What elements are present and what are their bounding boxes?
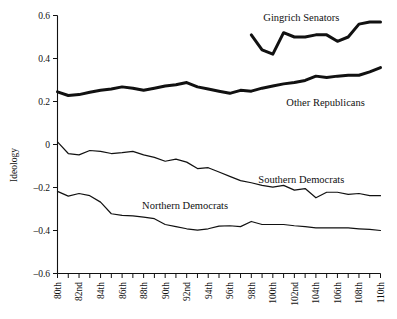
x-tick-label: 96th	[225, 282, 235, 299]
y-tick-label: 0.6	[38, 11, 50, 21]
series-line-gingrich-senators	[251, 22, 380, 54]
annotation-southern-democrats: Southern Democrats	[258, 174, 344, 185]
y-tick-label: –0.2	[32, 183, 50, 193]
ideology-line-chart: 0.60.40.20–0.2–0.4–0.6 80th82nd84th86th8…	[0, 0, 397, 319]
y-axis-title: Ideology	[9, 148, 19, 182]
x-tick-label: 88th	[139, 282, 149, 299]
y-tick-labels: 0.60.40.20–0.2–0.4–0.6	[32, 11, 50, 279]
x-tick-label: 104th	[311, 282, 321, 304]
x-axis-group: 80th82nd84th86th88th90th92nd94th96th98th…	[53, 274, 386, 306]
y-tick-label: –0.4	[32, 226, 50, 236]
x-tick-label: 106th	[333, 282, 343, 304]
x-tick-label: 80th	[53, 282, 63, 299]
series-line-northern-democrats	[58, 191, 381, 230]
x-tick-label: 94th	[204, 282, 214, 299]
series-line-other-republicans	[58, 68, 381, 96]
annotation-northern-democrats: Northern Democrats	[142, 200, 228, 211]
x-tick-label: 92nd	[182, 282, 192, 301]
chart-canvas: 0.60.40.20–0.2–0.4–0.6 80th82nd84th86th8…	[0, 0, 397, 319]
x-tick-label: 98th	[247, 282, 257, 299]
x-tick-label: 102nd	[290, 282, 300, 306]
y-tick-label: 0.2	[38, 97, 50, 107]
series-annotations: Gingrich SenatorsOther RepublicansSouthe…	[142, 12, 365, 210]
y-tick-marks	[53, 16, 58, 274]
x-tick-labels: 80th82nd84th86th88th90th92nd94th96th98th…	[53, 282, 386, 306]
y-tick-label: –0.6	[32, 269, 50, 279]
x-tick-label: 108th	[354, 282, 364, 304]
x-tick-label: 82nd	[74, 282, 84, 301]
y-tick-label: 0	[45, 140, 50, 150]
y-axis-group: 0.60.40.20–0.2–0.4–0.6	[32, 11, 57, 279]
annotation-other-republicans: Other Republicans	[286, 97, 364, 108]
x-tick-label: 84th	[96, 282, 106, 299]
x-tick-marks	[58, 274, 381, 279]
x-tick-label: 86th	[118, 282, 128, 299]
x-tick-label: 110th	[376, 282, 386, 304]
annotation-gingrich-senators: Gingrich Senators	[263, 12, 339, 23]
x-tick-label: 90th	[161, 282, 171, 299]
x-tick-label: 100th	[268, 282, 278, 304]
series-line-southern-democrats	[58, 142, 381, 198]
y-tick-label: 0.4	[38, 54, 50, 64]
